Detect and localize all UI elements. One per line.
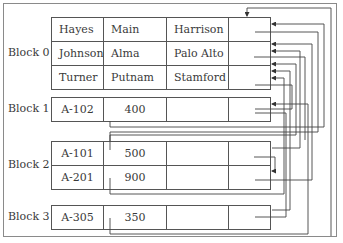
diagram-canvas: Block 0 Block 1 Block 2 Block 3 Hayes Ma…	[0, 0, 343, 243]
pointer-links	[0, 0, 343, 243]
